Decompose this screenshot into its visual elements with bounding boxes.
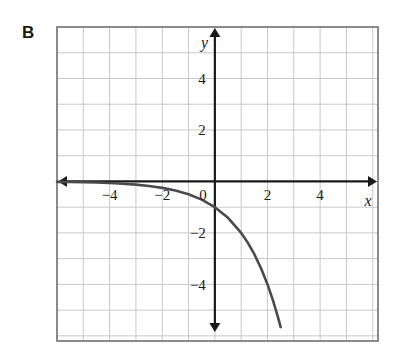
graph-canvas: −4−224−4−2240 y x xyxy=(0,0,400,360)
figure-panel: B −4−224−4−2240 y x xyxy=(0,0,400,360)
y-tick-label: 4 xyxy=(198,71,206,87)
origin-label: 0 xyxy=(199,187,207,203)
x-axis-label: x xyxy=(363,192,371,209)
y-axis-label: y xyxy=(199,34,209,52)
x-tick-label: −2 xyxy=(154,187,170,203)
y-tick-label: 2 xyxy=(198,122,206,138)
panel-label: B xyxy=(22,24,35,41)
y-tick-label: −4 xyxy=(190,277,206,293)
x-tick-label: −4 xyxy=(102,187,118,203)
x-tick-label: 2 xyxy=(264,187,272,203)
x-tick-label: 4 xyxy=(316,187,324,203)
y-tick-label: −2 xyxy=(190,225,206,241)
